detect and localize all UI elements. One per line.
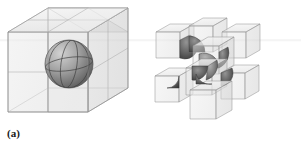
exploded-cube-8 <box>190 74 232 119</box>
exploded-unit-cells <box>155 18 260 119</box>
figure-container: (a) <box>0 0 301 149</box>
assembled-unit-cell <box>8 8 128 112</box>
figure-illustration <box>0 0 301 149</box>
figure-label: (a) <box>7 128 20 139</box>
